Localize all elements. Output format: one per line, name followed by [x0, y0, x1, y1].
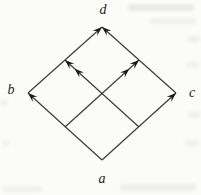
vertex-label-d: d — [100, 2, 108, 17]
vertex-label-a: a — [99, 171, 106, 186]
vertex-label-b: b — [8, 82, 15, 97]
vertex-label-c: c — [189, 85, 196, 100]
lattice-diamond-diagram-svg: abcd — [0, 0, 201, 195]
scanned-page-figure: abcd — [0, 0, 201, 195]
